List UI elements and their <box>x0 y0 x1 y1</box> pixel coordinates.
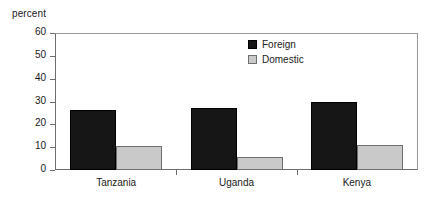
y-axis: 0102030405060 <box>0 33 55 171</box>
legend-label-domestic: Domestic <box>262 54 304 66</box>
y-axis-tick-label: 0 <box>40 163 46 175</box>
chart-legend: ForeignDomestic <box>248 38 304 66</box>
y-axis-tick-mark <box>50 170 55 171</box>
legend-swatch-domestic <box>248 55 257 64</box>
y-axis-tick-label: 30 <box>35 95 46 107</box>
legend-label-foreign: Foreign <box>262 39 296 51</box>
x-axis-label-uganda: Uganda <box>176 176 296 190</box>
bar-uganda-domestic <box>237 157 283 170</box>
bar-kenya-foreign <box>311 102 357 171</box>
y-axis-tick-label: 60 <box>35 26 46 38</box>
y-axis-tick-mark <box>50 102 55 103</box>
y-axis-tick-label: 40 <box>35 72 46 84</box>
legend-swatch-foreign <box>248 40 257 49</box>
bar-tanzania-domestic <box>116 146 162 170</box>
x-axis-tick-mark <box>297 170 298 175</box>
bars-layer <box>56 33 417 170</box>
x-axis-category-labels: TanzaniaUgandaKenya <box>56 176 417 192</box>
y-axis-tick-mark <box>50 56 55 57</box>
y-axis-tick-mark <box>50 147 55 148</box>
y-axis-tick-label: 10 <box>35 140 46 152</box>
bar-uganda-foreign <box>191 108 237 170</box>
x-axis-tick-mark <box>176 170 177 175</box>
y-axis-tick-mark <box>50 33 55 34</box>
bar-kenya-domestic <box>357 145 403 170</box>
y-axis-tick-mark <box>50 124 55 125</box>
bar-tanzania-foreign <box>70 110 116 171</box>
x-axis-label-kenya: Kenya <box>297 176 417 190</box>
x-axis-label-tanzania: Tanzania <box>56 176 176 190</box>
y-axis-title: percent <box>12 8 46 20</box>
bar-group <box>311 33 403 170</box>
y-axis-tick-mark <box>50 79 55 80</box>
legend-item-domestic: Domestic <box>248 53 304 66</box>
bar-chart: percent 0102030405060 TanzaniaUgandaKeny… <box>0 0 445 207</box>
legend-item-foreign: Foreign <box>248 38 304 51</box>
x-axis-ticks <box>56 170 417 175</box>
y-axis-tick-label: 20 <box>35 117 46 129</box>
bar-group <box>70 33 162 170</box>
y-axis-tick-label: 50 <box>35 49 46 61</box>
